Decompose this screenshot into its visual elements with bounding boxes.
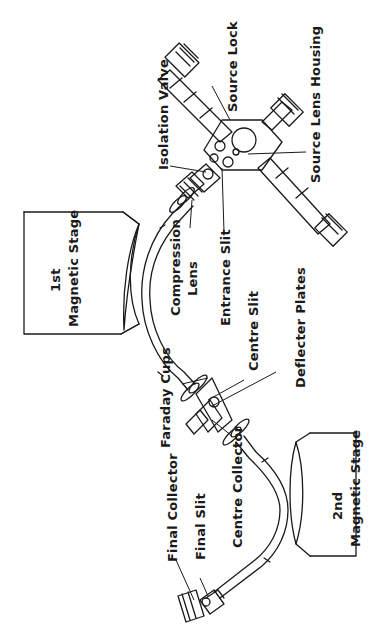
leader-final-slit	[200, 578, 208, 596]
label-compression-lens-line2: Lens	[185, 261, 200, 296]
label-first-stage-line2: Magnetic Stage	[66, 210, 81, 327]
label-deflecter-plates: Deflecter Plates	[293, 267, 308, 388]
label-centre-slit: Centre Slit	[246, 291, 261, 371]
label-compression-lens-line1: Compression	[168, 219, 183, 316]
label-first-stage-line1: 1st	[48, 268, 63, 292]
label-isolation-valve: Isolation Valve	[156, 59, 171, 170]
label-faraday-cups: Faraday Cups	[158, 347, 173, 448]
diagram-drawing	[0, 0, 383, 639]
source-lens-housing	[204, 120, 282, 170]
leader-source-lens-housing	[248, 152, 306, 154]
label-source-lock: Source Lock	[225, 21, 240, 112]
leader-centre-slit	[208, 380, 244, 400]
label-final-collector: Final Collector	[165, 453, 180, 562]
label-centre-collector: Centre Collector	[230, 426, 245, 548]
source-right-arm	[258, 158, 347, 246]
label-second-stage-line2: Magnetic Stage	[348, 430, 363, 547]
second-flight-tube	[214, 436, 288, 598]
label-entrance-slit: Entrance Slit	[218, 229, 233, 326]
label-final-slit: Final Slit	[193, 493, 208, 560]
label-second-stage-line1: 2nd	[330, 492, 345, 520]
mass-spectrometer-diagram: Source Lock Source Lens Housing Isolatio…	[0, 0, 383, 639]
leader-compression-lens	[190, 200, 192, 228]
leader-deflecter-plates	[212, 372, 276, 406]
isolation-valve-assembly	[167, 164, 220, 215]
label-source-lens-housing: Source Lens Housing	[308, 26, 323, 183]
final-collector-assembly	[178, 590, 224, 622]
second-magnetic-stage-magnet	[290, 433, 356, 556]
source-upper-arm	[262, 94, 303, 130]
leader-entrance-slit	[222, 168, 224, 232]
first-magnetic-stage-magnet	[24, 212, 139, 334]
